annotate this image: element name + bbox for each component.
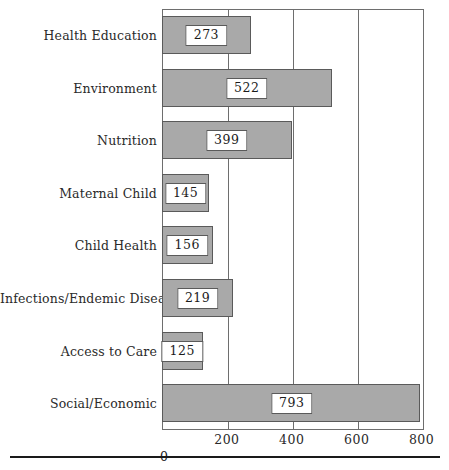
bar-value-label: 125 (162, 341, 203, 362)
xtick-label-400: 400 (279, 432, 304, 447)
category-label-health-education: Health Education (0, 28, 157, 43)
xtick-label-200: 200 (214, 432, 239, 447)
bar-value-label: 399 (206, 130, 247, 151)
bar-row: 125 (162, 325, 424, 378)
category-label-social-economic: Social/Economic (0, 396, 157, 411)
category-label-nutrition: Nutrition (0, 133, 157, 148)
category-label-environment: Environment (0, 81, 157, 96)
category-label-access-to-care: Access to Care (0, 344, 157, 359)
bar-value-label: 145 (165, 183, 206, 204)
bar-series: 273 522 399 145 156 219 125 793 (162, 9, 424, 430)
category-axis-labels: Health Education Environment Nutrition M… (0, 9, 157, 430)
category-label-maternal-child: Maternal Child (0, 186, 157, 201)
bar-row: 793 (162, 377, 424, 430)
bar-row: 399 (162, 114, 424, 167)
category-label-child-health: Child Health (0, 238, 157, 253)
bar-value-label: 273 (186, 25, 227, 46)
x-axis-tick-labels: 200 400 600 800 (0, 432, 449, 450)
category-label-infections-endemic-diseases: Infections/Endemic Diseases (0, 291, 157, 306)
bar-row: 273 (162, 9, 424, 62)
bar-value-label: 156 (167, 235, 208, 256)
bar-value-label: 793 (271, 393, 312, 414)
bar-row: 145 (162, 167, 424, 220)
bottom-divider-rule (10, 456, 440, 458)
xtick-label-0: 0 (160, 449, 168, 464)
xtick-label-600: 600 (344, 432, 369, 447)
horizontal-bar-chart: Health Education Environment Nutrition M… (0, 0, 449, 470)
bar-row: 219 (162, 272, 424, 325)
bar-value-label: 219 (177, 288, 218, 309)
bar-row: 156 (162, 219, 424, 272)
xtick-label-800: 800 (409, 432, 434, 447)
bar-row: 522 (162, 62, 424, 115)
bar-value-label: 522 (226, 78, 267, 99)
